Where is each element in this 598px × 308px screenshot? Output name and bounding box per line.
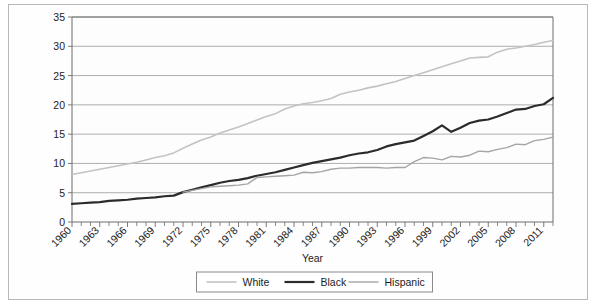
x-tick-label: 2005 (465, 224, 490, 249)
y-tick-label: 35 (53, 11, 65, 23)
y-tick-label: 30 (53, 40, 65, 52)
legend-label-hispanic: Hispanic (385, 276, 425, 288)
y-tick-label: 20 (53, 99, 65, 111)
x-tick-label: 1963 (76, 224, 101, 249)
x-tick-label: 1981 (243, 224, 268, 249)
y-tick-label: 10 (53, 157, 65, 169)
x-tick-label: 1984 (270, 224, 295, 249)
x-axis-title: Year (302, 252, 324, 264)
x-tick-label: 1978 (215, 224, 240, 249)
x-tick-label: 1975 (187, 224, 212, 249)
y-tick-label: 15 (53, 128, 65, 140)
x-tick-label: 2008 (492, 224, 517, 249)
x-tick-label: 1969 (132, 224, 157, 249)
x-tick-label: 1993 (354, 224, 379, 249)
x-tick-label: 1990 (326, 224, 351, 249)
chart-figure: 0510152025303519601963196619691972197519… (0, 0, 598, 308)
y-tick-label: 5 (59, 187, 65, 199)
x-tick-label: 1999 (409, 224, 434, 249)
x-tick-label: 1966 (104, 224, 129, 249)
x-tick-label: 1987 (298, 224, 323, 249)
x-tick-label: 2011 (521, 224, 546, 249)
x-tick-label: 1996 (381, 224, 406, 249)
x-tick-label: 2002 (437, 224, 462, 249)
legend-label-white: White (243, 276, 270, 288)
legend-label-black: Black (321, 276, 347, 288)
y-tick-label: 25 (53, 70, 65, 82)
x-tick-label: 1960 (48, 224, 73, 249)
x-tick-label: 1972 (159, 224, 184, 249)
line-chart: 0510152025303519601963196619691972197519… (0, 0, 598, 308)
